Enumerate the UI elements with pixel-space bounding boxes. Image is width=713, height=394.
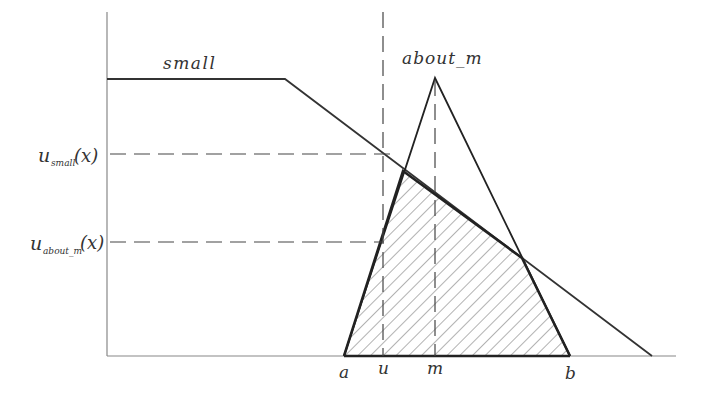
- fuzzy-diagram: small about_m u small (x) u about_m (x) …: [0, 0, 713, 394]
- b-label: b: [565, 363, 576, 383]
- u-about-m-label: u about_m (x): [30, 232, 104, 257]
- m-label: m: [427, 358, 443, 378]
- svg-text:(x): (x): [80, 232, 104, 253]
- svg-text:(x): (x): [74, 145, 98, 166]
- svg-text:small: small: [51, 158, 75, 168]
- svg-text:u: u: [30, 232, 42, 254]
- a-label: a: [339, 362, 349, 382]
- svg-text:about_m: about_m: [43, 246, 82, 257]
- u-small-label: u small (x): [38, 144, 98, 168]
- small-label: small: [163, 53, 216, 73]
- diagram-canvas: small about_m u small (x) u about_m (x) …: [0, 0, 713, 394]
- intersection-region: [344, 171, 570, 356]
- u-label: u: [378, 358, 389, 378]
- svg-text:u: u: [38, 144, 50, 166]
- about-m-label: about_m: [402, 48, 483, 68]
